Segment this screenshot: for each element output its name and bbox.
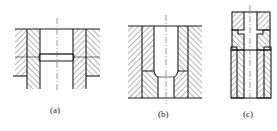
sleeve-left-a [27, 29, 40, 89]
sleeve-right-a [73, 29, 86, 89]
drawing-canvas: (a) (b) [0, 0, 277, 131]
sleeve-left-b [142, 26, 154, 71]
panel-b: (b) [128, 15, 202, 119]
cap-left-c [232, 12, 244, 30]
panel-c: (c) [231, 5, 271, 119]
panel-a: (a) [13, 18, 100, 115]
outer-body-right-b [188, 26, 202, 98]
label-a: (a) [50, 105, 60, 115]
outer-body-left-b [128, 26, 142, 98]
sleeve-right-b [178, 26, 188, 71]
label-c: (c) [243, 109, 253, 119]
lower-sleeve-left-outer-c [231, 50, 237, 98]
lower-sleeve-left-inner-c [237, 50, 244, 98]
outer-body-right-a [86, 29, 100, 76]
label-b: (b) [158, 109, 169, 119]
lower-sleeve-right-outer-c [264, 50, 271, 98]
outer-body-left-a [15, 29, 27, 76]
lower-sleeve-right-inner-c [257, 50, 264, 98]
cap-right-c [257, 12, 270, 30]
